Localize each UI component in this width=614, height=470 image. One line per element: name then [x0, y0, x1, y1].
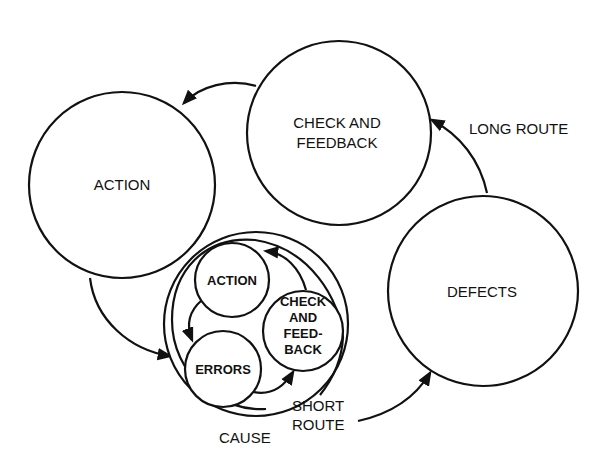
node-check-feedback-label-1: CHECK AND: [293, 114, 381, 131]
node-inner-action: ACTION: [195, 243, 269, 317]
arrow-action-to-cause: [90, 278, 170, 356]
cycle-diagram: ACTION CHECK AND FEEDBACK DEFECTS ACTION…: [0, 0, 614, 470]
node-action: ACTION: [29, 92, 215, 278]
node-action-label: ACTION: [94, 176, 151, 193]
node-inner-check-label-3: FEED-: [284, 326, 323, 341]
node-inner-check-label-1: CHECK: [280, 294, 327, 309]
node-inner-errors-label: ERRORS: [195, 362, 251, 377]
cause-label: CAUSE: [219, 429, 271, 446]
short-route-label-2: ROUTE: [292, 416, 345, 433]
long-route-label: LONG ROUTE: [469, 120, 568, 137]
node-inner-errors: ERRORS: [185, 331, 261, 407]
short-route-label-1: SHORT: [292, 397, 344, 414]
node-check-feedback: CHECK AND FEEDBACK: [247, 41, 431, 225]
node-inner-action-label: ACTION: [207, 273, 257, 288]
node-defects-label: DEFECTS: [447, 283, 517, 300]
node-inner-check: CHECK AND FEED- BACK: [263, 291, 343, 371]
arrow-short-route-to-defects: [358, 373, 430, 421]
node-check-feedback-label-2: FEEDBACK: [297, 134, 378, 151]
node-inner-check-label-2: AND: [289, 310, 317, 325]
node-defects: DEFECTS: [388, 196, 578, 386]
arrow-check-to-action: [184, 83, 256, 103]
node-inner-check-label-4: BACK: [284, 342, 322, 357]
